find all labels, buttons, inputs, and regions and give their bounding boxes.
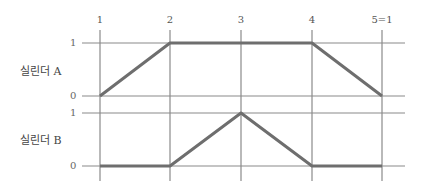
cylinder-b-low-label: 0 bbox=[70, 161, 76, 171]
cylinder-b-label: 실린더 B bbox=[20, 135, 62, 146]
displacement-step-diagram: 1 2 3 4 5=1 1 0 실린더 A 1 0 실린더 B bbox=[0, 0, 423, 192]
step-label-5: 5=1 bbox=[371, 15, 392, 25]
cylinder-a-label: 실린더 A bbox=[20, 66, 61, 77]
step-label-4: 4 bbox=[309, 15, 315, 25]
cylinder-b-high-label: 1 bbox=[70, 108, 76, 118]
step-label-1: 1 bbox=[97, 15, 103, 25]
level-grid-lines bbox=[82, 43, 405, 166]
step-label-2: 2 bbox=[167, 15, 173, 25]
cylinder-a-high-label: 1 bbox=[70, 38, 76, 48]
diagram-graphic bbox=[0, 0, 423, 192]
cylinder-a-low-label: 0 bbox=[70, 91, 76, 101]
step-label-3: 3 bbox=[238, 15, 244, 25]
step-grid-lines bbox=[100, 30, 382, 181]
